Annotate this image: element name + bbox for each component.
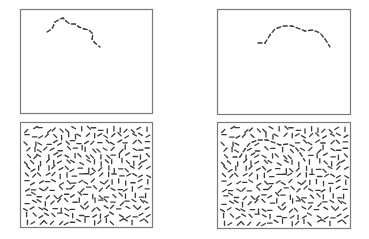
panel-frame bbox=[218, 10, 351, 115]
panel-bottom-right bbox=[218, 123, 351, 229]
panel-top-right bbox=[218, 10, 351, 115]
contour-segment bbox=[79, 27, 81, 28]
contour-segment bbox=[84, 29, 87, 30]
embedded-contour-segment bbox=[267, 140, 269, 141]
panel-bottom-left bbox=[21, 123, 153, 228]
contour-segment bbox=[99, 46, 100, 47]
contour-figure bbox=[0, 0, 369, 239]
panel-top-left bbox=[21, 10, 153, 114]
panel-frame bbox=[21, 10, 153, 114]
contour-segment bbox=[63, 18, 64, 19]
contour-segment bbox=[292, 26, 294, 27]
